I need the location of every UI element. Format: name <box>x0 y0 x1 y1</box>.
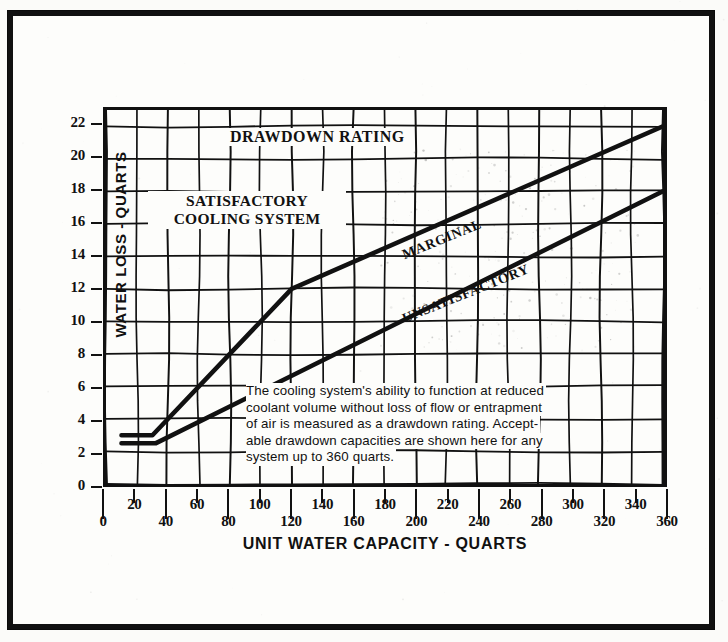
y-tick-label-18: 18 <box>55 180 85 197</box>
x-tick-label-140: 140 <box>302 496 342 513</box>
y-tick-label-16: 16 <box>55 213 85 230</box>
x-tick-label-320: 320 <box>584 513 624 530</box>
y-axis-title: WATER LOSS - QUARTS <box>112 115 129 375</box>
x-tick-label-20: 20 <box>114 496 154 513</box>
note-line-1: The cooling system's ability to function… <box>246 383 546 400</box>
grid-line-x-40 <box>166 110 169 484</box>
y-tick-label-14: 14 <box>55 246 85 263</box>
drawdown-rating-chart: 2220181614121086420 02040608010012014016… <box>0 0 728 642</box>
grid-line-x-0 <box>106 110 107 484</box>
region-label-satisfactory: SATISFACTORY COOLING SYSTEM <box>148 191 346 229</box>
x-tick-label-120: 120 <box>271 513 311 530</box>
x-tick-label-80: 80 <box>208 513 248 530</box>
note-line-5: system up to 360 quarts. <box>246 449 396 466</box>
grid-line-x-20 <box>136 110 138 484</box>
x-tick-label-40: 40 <box>146 513 186 530</box>
y-tick-mark-20 <box>91 156 102 158</box>
x-tick-label-200: 200 <box>396 513 436 530</box>
y-tick-mark-8 <box>91 354 102 356</box>
y-tick-mark-10 <box>91 321 102 323</box>
x-tick-label-360: 360 <box>647 513 687 530</box>
x-tick-label-280: 280 <box>522 513 562 530</box>
y-tick-mark-6 <box>91 387 102 389</box>
explanatory-note: The cooling system's ability to function… <box>246 383 546 466</box>
chart-title-annotation: DRAWDOWN RATING <box>224 128 411 146</box>
x-tick-label-340: 340 <box>616 496 656 513</box>
region-label-satisfactory-line1: SATISFACTORY <box>186 192 308 209</box>
grid-line-x-340 <box>631 110 634 484</box>
y-tick-label-20: 20 <box>55 147 85 164</box>
note-line-2: coolant volume without loss of flow or e… <box>246 400 544 417</box>
y-tick-label-8: 8 <box>55 345 85 362</box>
y-tick-mark-4 <box>91 420 102 422</box>
x-axis-title: UNIT WATER CAPACITY - QUARTS <box>103 535 667 553</box>
x-tick-label-60: 60 <box>177 496 217 513</box>
figure-page: 2220181614121086420 02040608010012014016… <box>0 0 728 642</box>
y-tick-mark-18 <box>91 189 102 191</box>
grid-line-y-8 <box>106 353 663 355</box>
grid-line-x-320 <box>600 110 603 484</box>
grid-line-y-0 <box>106 483 663 484</box>
y-tick-mark-2 <box>91 453 102 455</box>
y-tick-label-4: 4 <box>55 411 85 428</box>
region-label-satisfactory-line2: COOLING SYSTEM <box>174 210 321 227</box>
y-tick-mark-12 <box>91 288 102 290</box>
y-tick-label-6: 6 <box>55 378 85 395</box>
x-tick-label-180: 180 <box>365 496 405 513</box>
x-tick-label-260: 260 <box>490 496 530 513</box>
y-tick-label-22: 22 <box>55 114 85 131</box>
grid-line-x-80 <box>228 110 231 484</box>
y-tick-label-10: 10 <box>55 312 85 329</box>
y-tick-label-12: 12 <box>55 279 85 296</box>
grid-line-x-360 <box>662 110 663 484</box>
grid-line-x-60 <box>197 110 200 484</box>
y-tick-mark-0 <box>91 486 102 488</box>
y-tick-label-0: 0 <box>55 477 85 494</box>
y-tick-mark-14 <box>91 255 102 257</box>
x-tick-label-0: 0 <box>83 513 123 530</box>
y-tick-mark-22 <box>91 123 102 125</box>
note-line-3: of air is measured as a drawdown rating.… <box>246 416 540 433</box>
y-tick-label-2: 2 <box>55 444 85 461</box>
note-line-4: able drawdown capacities are shown here … <box>246 433 545 450</box>
x-tick-label-100: 100 <box>240 496 280 513</box>
x-tick-label-240: 240 <box>459 513 499 530</box>
x-tick-label-300: 300 <box>553 496 593 513</box>
x-tick-label-160: 160 <box>334 513 374 530</box>
y-tick-mark-16 <box>91 222 102 224</box>
x-tick-label-220: 220 <box>428 496 468 513</box>
